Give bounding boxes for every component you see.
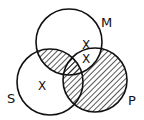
x-mark-m-p-upper: X (82, 38, 90, 52)
venn-diagram: M S P X X X (0, 0, 144, 120)
x-mark-m-p-lower: X (82, 52, 90, 66)
label-s: S (7, 91, 15, 106)
label-m: M (101, 15, 112, 30)
label-p: P (128, 93, 136, 108)
x-mark-s-only: X (38, 79, 46, 93)
